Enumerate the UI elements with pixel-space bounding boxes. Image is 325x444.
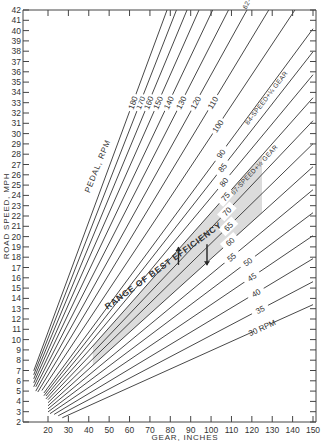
y-tick-label: 39 <box>12 36 22 46</box>
y-tick-label: 40 <box>12 26 22 36</box>
rpm-line-30 <box>62 305 313 418</box>
y-tick-label: 41 <box>12 15 22 25</box>
y-tick-label: 4 <box>16 396 21 406</box>
y-tick-label: 7 <box>16 366 21 376</box>
axes <box>23 10 316 422</box>
y-tick-label: 9 <box>16 345 21 355</box>
y-tick-label: 37 <box>12 57 22 67</box>
y-tick-label: 29 <box>12 139 22 149</box>
y-tick-label: 35 <box>12 77 22 87</box>
rpm-line-50 <box>48 213 313 412</box>
y-tick-label: 12 <box>12 314 22 324</box>
x-tick-label: 40 <box>84 425 94 435</box>
y-tick-label: 20 <box>12 232 22 242</box>
y-tick-label: 31 <box>12 118 22 128</box>
rpm-line-120 <box>36 10 247 391</box>
x-tick-label: 140 <box>286 425 300 435</box>
y-axis-title: ROAD SPEED, MPH <box>2 173 11 260</box>
x-tick-label: 130 <box>265 425 279 435</box>
x-tick-label: 150 <box>306 425 320 435</box>
y-tick-label: 6 <box>16 376 21 386</box>
y-tick-label: 11 <box>12 324 21 334</box>
y-tick-label: 36 <box>12 67 22 77</box>
x-tick-label: 60 <box>125 425 135 435</box>
y-tick-label: 15 <box>12 283 22 293</box>
y-tick-label: 33 <box>12 98 22 108</box>
y-tick-label: 8 <box>16 355 21 365</box>
rpm-line-160 <box>34 10 187 379</box>
y-tick-label: 5 <box>16 386 21 396</box>
y-tick-label: 2 <box>16 417 21 427</box>
y-tick-label: 42 <box>12 5 22 15</box>
x-tick-label: 110 <box>225 425 239 435</box>
rpm-line-80 <box>46 75 313 396</box>
rpm-label-30: 30 RPM <box>247 318 277 338</box>
y-tick-label: 24 <box>12 190 22 200</box>
rpm-lines <box>34 10 313 418</box>
annotation-0: 62-SPEED+½ GEAR <box>241 0 279 10</box>
y-tick-label: 10 <box>12 335 22 345</box>
rpm-line-60 <box>48 167 313 406</box>
y-tick-label: 26 <box>12 170 22 180</box>
y-tick-label: 27 <box>12 160 22 170</box>
x-tick-label: 50 <box>104 425 114 435</box>
y-tick-label: 16 <box>12 273 22 283</box>
annotation-1: 84-SPEED+¼ GEAR <box>244 70 289 126</box>
x-tick-label: 120 <box>245 425 259 435</box>
y-tick-label: 21 <box>12 221 22 231</box>
x-tick-label: 30 <box>64 425 74 435</box>
y-tick-label: 18 <box>12 252 22 262</box>
y-tick-label: 38 <box>12 46 22 56</box>
y-tick-label: 28 <box>12 149 22 159</box>
y-tick-label: 30 <box>12 129 22 139</box>
y-tick-label: 13 <box>12 304 22 314</box>
y-tick-label: 3 <box>16 407 21 417</box>
gear-speed-chart: 2030405060708090100110120130140150234567… <box>0 0 325 444</box>
y-tick-label: 34 <box>12 87 22 97</box>
y-tick-label: 23 <box>12 201 22 211</box>
y-tick-label: 14 <box>12 293 22 303</box>
x-tick-label: 20 <box>43 425 53 435</box>
ticks: 2030405060708090100110120130140150234567… <box>12 5 321 435</box>
y-tick-label: 17 <box>12 263 22 273</box>
rpm-line-55 <box>48 190 313 409</box>
y-tick-label: 32 <box>12 108 22 118</box>
y-tick-label: 19 <box>12 242 22 252</box>
x-axis-title: GEAR, INCHES <box>152 433 219 442</box>
y-tick-label: 22 <box>12 211 22 221</box>
y-tick-label: 25 <box>12 180 22 190</box>
